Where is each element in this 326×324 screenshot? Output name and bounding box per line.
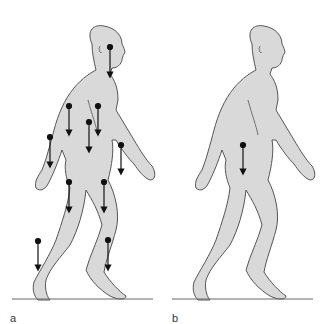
figure-b bbox=[172, 26, 315, 300]
walking-figure-a bbox=[33, 26, 155, 300]
walking-figure-b bbox=[193, 26, 315, 300]
panel-label-b: b bbox=[172, 312, 178, 324]
panel-label-a: a bbox=[10, 312, 16, 324]
figure-a bbox=[12, 26, 155, 300]
